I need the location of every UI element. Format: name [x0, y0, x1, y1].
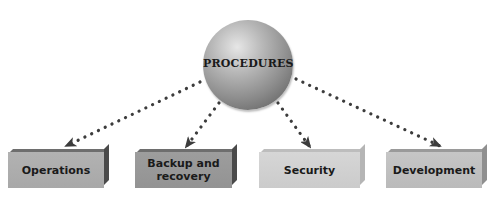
- procedures-diagram: PROCEDURES Operations Backup and recover…: [0, 0, 498, 202]
- node-operations: Operations: [8, 152, 104, 188]
- development-label: Development: [386, 152, 482, 188]
- node-security: Security: [259, 152, 360, 188]
- arrow-to-security: [278, 103, 310, 147]
- node-backup-and-recovery: Backup and recovery: [135, 152, 232, 188]
- procedures-label: PROCEDURES: [203, 57, 293, 70]
- box-side-edge: [360, 144, 365, 185]
- arrow-to-development: [296, 79, 440, 146]
- procedures-sphere-node: PROCEDURES: [203, 20, 293, 110]
- operations-label: Operations: [8, 152, 104, 188]
- backup-label-line1: Backup and: [147, 157, 219, 170]
- box-side-edge: [232, 144, 237, 185]
- backup-and-recovery-label: Backup and recovery: [135, 152, 232, 188]
- backup-label-line2: recovery: [147, 170, 219, 183]
- security-label: Security: [259, 152, 360, 188]
- box-side-edge: [104, 144, 109, 185]
- node-development: Development: [386, 152, 482, 188]
- arrow-to-operations: [66, 82, 200, 146]
- arrow-to-backup: [186, 103, 219, 147]
- box-side-edge: [482, 144, 487, 185]
